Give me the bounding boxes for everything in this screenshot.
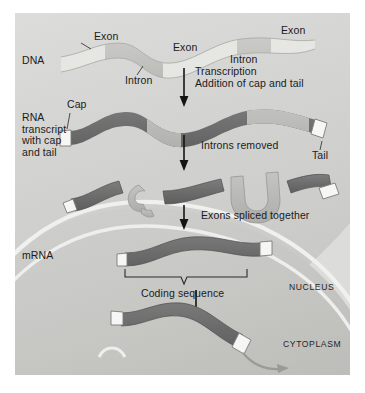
diagram-artwork [15, 13, 350, 375]
dna-exon-label-3: Exon [281, 24, 305, 36]
coding-sequence-label: Coding sequence [141, 287, 224, 299]
step-label-exons-spliced: Exons spliced together [201, 209, 309, 221]
exported-mrna-cap [111, 311, 123, 325]
dna-intron-label-2: Intron [230, 53, 257, 65]
mrna-tail [260, 241, 272, 256]
rna-cap-label: Cap [67, 98, 87, 110]
stage-label-mrna: mRNA [22, 249, 53, 261]
stage-label-rna-transcript: RNA transcript with cap and tail [22, 112, 66, 158]
diagram-panel: DNA RNA transcript with cap and tail mRN… [15, 13, 350, 375]
step-label-introns-removed: Introns removed [201, 139, 278, 151]
stage-label-dna: DNA [22, 54, 44, 66]
step-label-transcription: Transcription [195, 65, 257, 77]
dna-intron-label-1: Intron [125, 74, 152, 86]
mrna-cap [117, 253, 127, 266]
dna-exon-label-1: Exon [94, 30, 118, 42]
figure-root: DNA RNA transcript with cap and tail mRN… [0, 0, 365, 393]
nucleus-label: NUCLEUS [289, 281, 334, 293]
cytoplasm-label: CYTOPLASM [283, 338, 341, 350]
step-label-cap-and-tail: Addition of cap and tail [195, 77, 304, 89]
dna-exon-label-2: Exon [173, 41, 197, 53]
rna-tail-label: Tail [312, 149, 328, 161]
